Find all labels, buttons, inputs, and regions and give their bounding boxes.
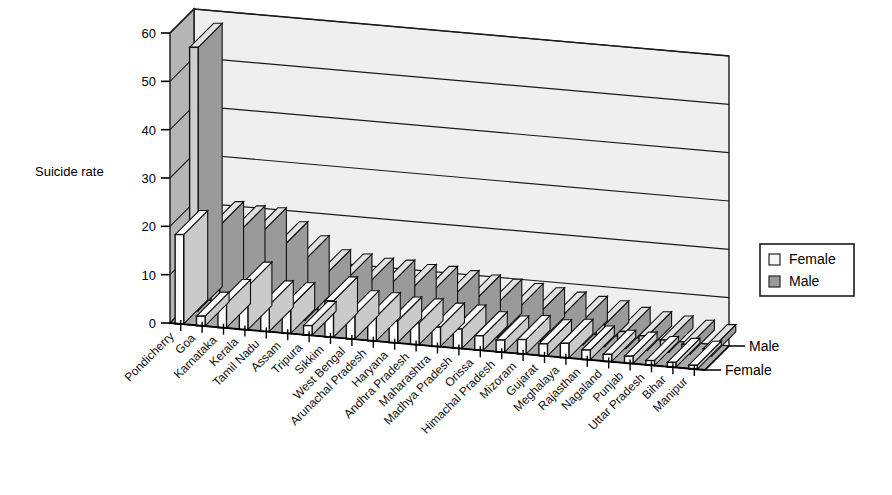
legend-label-female: Female [789,251,836,267]
bar-front-face [304,326,313,336]
y-tick-label: 40 [142,123,156,138]
z-axis-label-female: Female [725,362,772,378]
suicide-rate-3d-bar-chart: 6050403020100Suicide ratePondicherryGoaK… [0,0,892,495]
z-axis-label-male: Male [749,338,780,354]
bar-front-face [197,316,206,326]
x-tick-label-0: Pondicherry [122,329,177,384]
bar-front-face [539,344,548,356]
y-tick-label: 10 [142,268,156,283]
y-axis-title: Suicide rate [35,164,104,179]
legend-label-male: Male [789,273,820,289]
legend: FemaleMale [760,244,854,296]
legend-swatch-male[interactable] [769,276,780,287]
bar-front-face [175,235,184,324]
y-tick-label: 20 [142,219,156,234]
y-tick-label: 60 [142,26,156,41]
y-tick-label: 0 [149,316,156,331]
bar-front-face [560,343,569,358]
chart-canvas: 6050403020100Suicide ratePondicherryGoaK… [0,0,892,495]
bar-front-face [582,350,591,360]
bar-front-face [518,340,527,355]
bar-front-face [475,336,484,351]
y-tick-label: 30 [142,171,156,186]
y-tick-label: 50 [142,74,156,89]
legend-swatch-female[interactable] [769,254,780,265]
bar-front-face [496,340,505,352]
plot-area: 6050403020100Suicide ratePondicherryGoaK… [35,9,780,437]
